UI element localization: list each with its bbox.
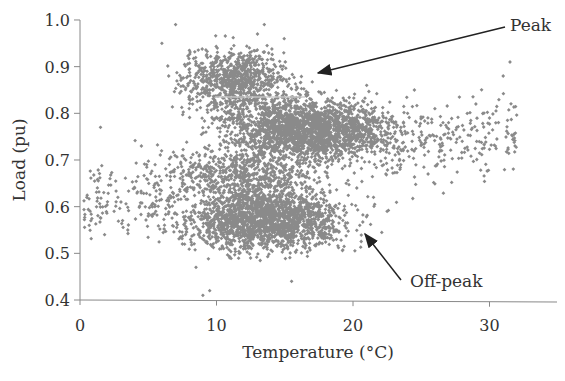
y-tick-label: 0.7 — [45, 151, 70, 170]
y-tick-label: 0.4 — [45, 291, 70, 310]
y-tick-label: 0.5 — [45, 244, 70, 263]
off-peak-arrow — [365, 234, 401, 280]
x-tick-label: 10 — [206, 316, 226, 335]
x-tick-label: 20 — [343, 316, 363, 335]
y-tick-label: 0.9 — [45, 58, 70, 77]
off-peak-annotation: Off-peak — [410, 271, 483, 291]
y-tick-label: 0.8 — [45, 104, 70, 123]
x-tick-label: 30 — [479, 316, 499, 335]
y-tick-label: 1.0 — [45, 11, 70, 30]
peak-annotation: Peak — [510, 15, 552, 35]
x-axis-line — [80, 300, 557, 302]
y-tick-label: 0.6 — [45, 198, 70, 217]
chart-canvas: 0.40.50.60.70.80.91.0 0102030 Temperatur… — [0, 0, 565, 381]
y-axis-label: Load (pu) — [9, 118, 29, 201]
x-axis-label: Temperature (°C) — [242, 342, 394, 362]
scatter-markers — [82, 23, 518, 298]
x-tick-label: 0 — [75, 316, 85, 335]
y-axis-ticks: 0.40.50.60.70.80.91.0 — [45, 11, 80, 310]
data-points — [82, 23, 518, 298]
scatter-chart: 0.40.50.60.70.80.91.0 0102030 Temperatur… — [0, 0, 565, 381]
peak-arrow — [318, 27, 505, 73]
x-axis-ticks: 0102030 — [75, 300, 500, 335]
